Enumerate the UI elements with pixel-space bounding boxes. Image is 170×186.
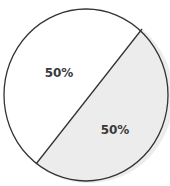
- pie-chart: 50% 50%: [0, 0, 170, 186]
- slice-label-gray: 50%: [101, 123, 130, 137]
- slice-label-white: 50%: [45, 66, 74, 80]
